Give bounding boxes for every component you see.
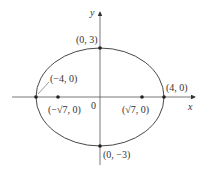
left-vertex-leader	[38, 82, 49, 94]
bottom-covertex-label: (0, −3)	[103, 149, 130, 161]
top-covertex-label: (0, 3)	[76, 34, 98, 46]
right-focus-label: (√7, 0)	[122, 104, 149, 116]
right-vertex-point	[162, 95, 166, 99]
left-vertex-point	[34, 95, 38, 99]
top-covertex-point	[98, 46, 102, 50]
left-focus-label: (−√7, 0)	[48, 104, 81, 116]
right-vertex-label: (4, 0)	[166, 82, 188, 94]
left-focus-point	[56, 95, 60, 99]
left-vertex-label: (−4, 0)	[50, 73, 77, 85]
x-axis-label: x	[187, 101, 193, 112]
bottom-covertex-point	[98, 144, 102, 148]
y-axis-label: y	[89, 7, 95, 18]
origin-label: 0	[91, 100, 96, 111]
ellipse-diagram: y x 0 (0, 3) (−4, 0) (4, 0) (0, −3) (−√7…	[0, 0, 209, 178]
right-focus-point	[140, 95, 144, 99]
